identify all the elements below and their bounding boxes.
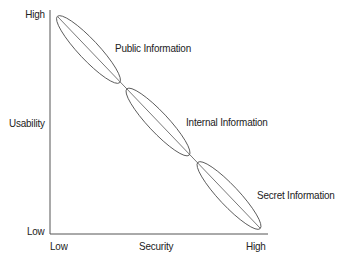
y-axis-low-label: Low [27, 225, 45, 237]
x-axis-high-label: High [246, 240, 266, 252]
y-axis-high-label: High [25, 8, 45, 20]
public-information-label: Public Information [115, 42, 191, 54]
y-axis-title: Usability [9, 117, 45, 129]
x-axis-title: Security [139, 240, 173, 252]
diagram-canvas [0, 0, 349, 257]
secret-information-label: Secret Information [257, 189, 335, 201]
internal-information-label: Internal Information [186, 116, 268, 128]
x-axis-low-label: Low [50, 240, 68, 252]
